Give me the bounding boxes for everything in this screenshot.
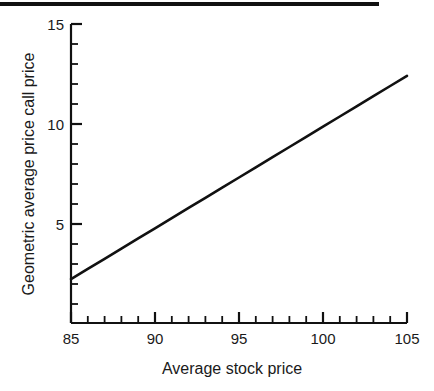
x-axis-title: Average stock price [162, 360, 302, 377]
x-tick-label-105: 105 [394, 330, 419, 347]
x-tick-label-85: 85 [63, 330, 80, 347]
series-geometric-average-price-call-price [71, 76, 407, 279]
y-tick-label-15: 15 [47, 16, 64, 33]
line-chart-canvas: 15 10 5 85 90 95 100 105 Average stock p… [0, 0, 434, 391]
x-tick-label-100: 100 [310, 330, 335, 347]
x-tick-label-90: 90 [147, 330, 164, 347]
chart-figure: 15 10 5 85 90 95 100 105 Average stock p… [0, 0, 434, 391]
y-tick-label-10: 10 [47, 116, 64, 133]
y-axis-title: Geometric average price call price [20, 53, 37, 296]
y-axis-major-ticks [71, 24, 82, 224]
y-tick-label-5: 5 [56, 216, 64, 233]
x-tick-label-95: 95 [231, 330, 248, 347]
